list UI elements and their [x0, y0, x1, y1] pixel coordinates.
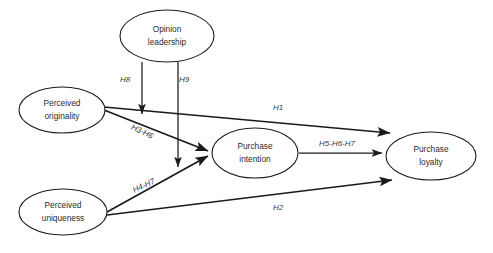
path-h8: H8: [120, 62, 142, 114]
path-h4-h7-line: [107, 156, 208, 212]
node-purchase-intention-shape: [212, 128, 298, 178]
path-label-h8: H8: [120, 75, 131, 84]
node-purchase-intention[interactable]: Purchase intention: [212, 128, 298, 178]
path-diagram-canvas: H8 H9 H1 H3-H6 H4-H7 H2 H5: [0, 0, 493, 253]
node-opinion-leadership-line2: leadership: [148, 37, 187, 47]
path-h5-h6-h7: H5-H6-H7: [299, 139, 382, 153]
path-h3-h6-line: [104, 110, 208, 151]
node-perceived-uniqueness-line2: uniqueness: [42, 213, 84, 223]
path-h4-h7: H4-H7: [107, 156, 208, 212]
node-purchase-loyalty[interactable]: Purchase loyalty: [386, 132, 476, 180]
node-purchase-intention-line1: Purchase: [237, 141, 272, 151]
path-label-h1: H1: [273, 103, 283, 112]
node-opinion-leadership[interactable]: Opinion leadership: [120, 10, 214, 62]
node-opinion-leadership-line1: Opinion: [153, 24, 182, 34]
node-purchase-loyalty-shape: [386, 132, 476, 180]
node-perceived-originality-line1: Perceived: [44, 98, 81, 108]
node-purchase-loyalty-line2: loyalty: [419, 157, 443, 167]
node-perceived-originality[interactable]: Perceived originality: [19, 87, 105, 133]
node-purchase-intention-line2: intention: [239, 154, 271, 164]
model-diagram-svg: H8 H9 H1 H3-H6 H4-H7 H2 H5: [0, 0, 493, 253]
path-label-h5-h6-h7: H5-H6-H7: [319, 139, 356, 148]
node-perceived-uniqueness-line1: Perceived: [45, 200, 82, 210]
node-opinion-leadership-shape: [120, 10, 214, 62]
node-purchase-loyalty-line1: Purchase: [413, 144, 448, 154]
node-perceived-uniqueness-shape: [19, 189, 107, 235]
path-h3-h6: H3-H6: [104, 110, 208, 151]
path-label-h9: H9: [179, 75, 190, 84]
node-perceived-uniqueness[interactable]: Perceived uniqueness: [19, 189, 107, 235]
path-label-h2: H2: [273, 203, 284, 212]
node-perceived-originality-shape: [19, 87, 105, 133]
node-perceived-originality-line2: originality: [44, 111, 80, 121]
